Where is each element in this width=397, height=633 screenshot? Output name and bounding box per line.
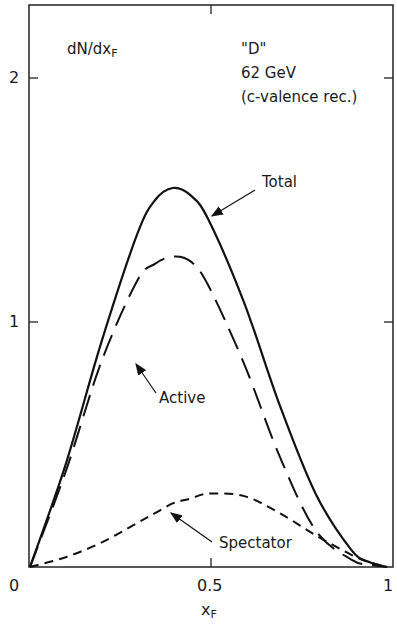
- series-spectator-line: [30, 493, 387, 567]
- series-total-line: [30, 188, 387, 567]
- ytick-label-1: 1: [9, 314, 19, 330]
- x-axis-label-sub: F: [210, 608, 216, 621]
- label-total: Total: [262, 175, 297, 190]
- y-axis-label-sub: F: [111, 47, 117, 60]
- xtick-label-1: 1: [383, 578, 393, 594]
- label-active: Active: [159, 391, 205, 406]
- spectator-arrow: [171, 513, 212, 542]
- xtick-label-05: 0.5: [197, 578, 222, 594]
- x-axis-label: xF: [201, 602, 217, 620]
- series-active-line: [30, 256, 387, 567]
- y-axis-label-text: dN/dx: [67, 40, 111, 58]
- y-axis-label: dN/dxF: [67, 42, 118, 59]
- total-arrow: [212, 190, 255, 216]
- annotation-line1: "D": [241, 42, 266, 57]
- label-spectator: Spectator: [219, 536, 292, 551]
- annotation-line2: 62 GeV: [241, 66, 296, 81]
- annotation-line3: (c-valence rec.): [241, 90, 357, 105]
- xtick-label-0: 0: [9, 578, 19, 594]
- active-arrow: [136, 364, 156, 393]
- ytick-label-2: 2: [9, 70, 19, 86]
